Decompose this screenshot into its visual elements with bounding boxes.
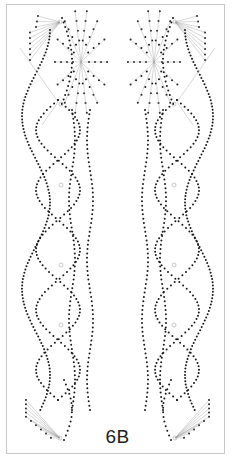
string-art-pattern bbox=[0, 0, 235, 470]
pattern-label: 6B bbox=[0, 426, 235, 448]
